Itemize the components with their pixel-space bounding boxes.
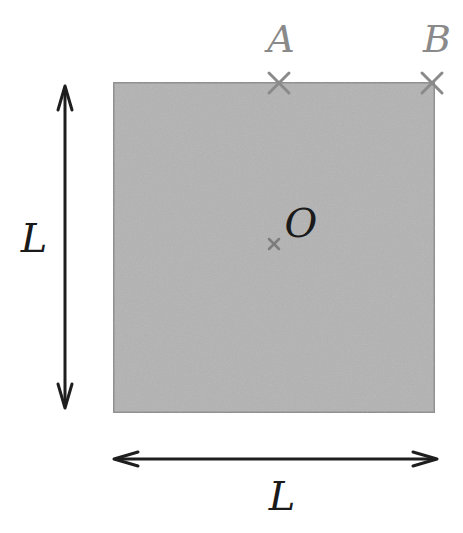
horizontal-dimension-arrow	[114, 452, 437, 466]
vertical-dimension-label: L	[20, 215, 48, 261]
point-o-label: O	[285, 200, 318, 246]
horizontal-dimension-label: L	[268, 473, 296, 519]
square-diagram: A B O L L	[0, 0, 463, 533]
square-plate	[113, 82, 435, 413]
point-b-label: B	[422, 17, 451, 61]
vertical-dimension-arrow	[58, 86, 72, 408]
point-a-label: A	[264, 17, 294, 61]
